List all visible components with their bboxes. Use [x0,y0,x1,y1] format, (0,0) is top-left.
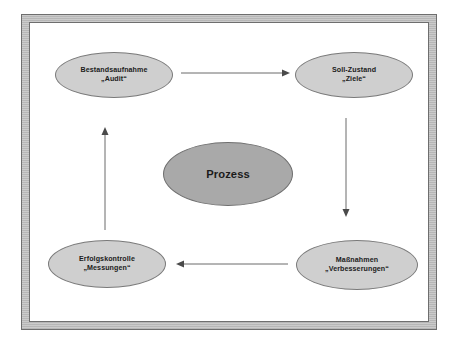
node-label-line1: Erfolgskontrolle [79,255,135,264]
arrow-ziele-to-verbesserungen [341,118,351,218]
node-prozess[interactable]: Prozess [163,142,293,206]
node-label-line2: „Verbesserungen“ [325,265,389,274]
node-massnahmen-verbesserungen[interactable]: Maßnahmen „Verbesserungen“ [296,240,418,290]
node-label-group: Erfolgskontrolle „Messungen“ [73,255,141,274]
node-label-line2: „Ziele“ [332,75,376,84]
node-label-group: Prozess [200,167,256,182]
node-label-line1: Prozess [206,167,250,182]
node-label-line2: „Audit“ [80,75,147,84]
node-soll-zustand-ziele[interactable]: Soll-Zustand „Ziele“ [295,52,413,98]
diagram-canvas: Bestandsaufnahme „Audit“ Soll-Zustand „Z… [0,0,453,348]
node-label-group: Maßnahmen „Verbesserungen“ [319,256,395,275]
node-label-group: Soll-Zustand „Ziele“ [326,66,382,85]
node-label-group: Bestandsaufnahme „Audit“ [74,66,153,85]
arrow-messungen-to-audit [100,126,110,230]
node-label-line1: Bestandsaufnahme [80,66,147,75]
node-bestandsaufnahme-audit[interactable]: Bestandsaufnahme „Audit“ [55,52,173,98]
node-erfolgskontrolle-messungen[interactable]: Erfolgskontrolle „Messungen“ [48,240,166,288]
arrow-verbesserungen-to-messungen [175,259,288,269]
node-label-line2: „Messungen“ [79,264,135,273]
arrow-audit-to-ziele [181,68,291,78]
node-label-line1: Maßnahmen [325,256,389,265]
node-label-line1: Soll-Zustand [332,66,376,75]
